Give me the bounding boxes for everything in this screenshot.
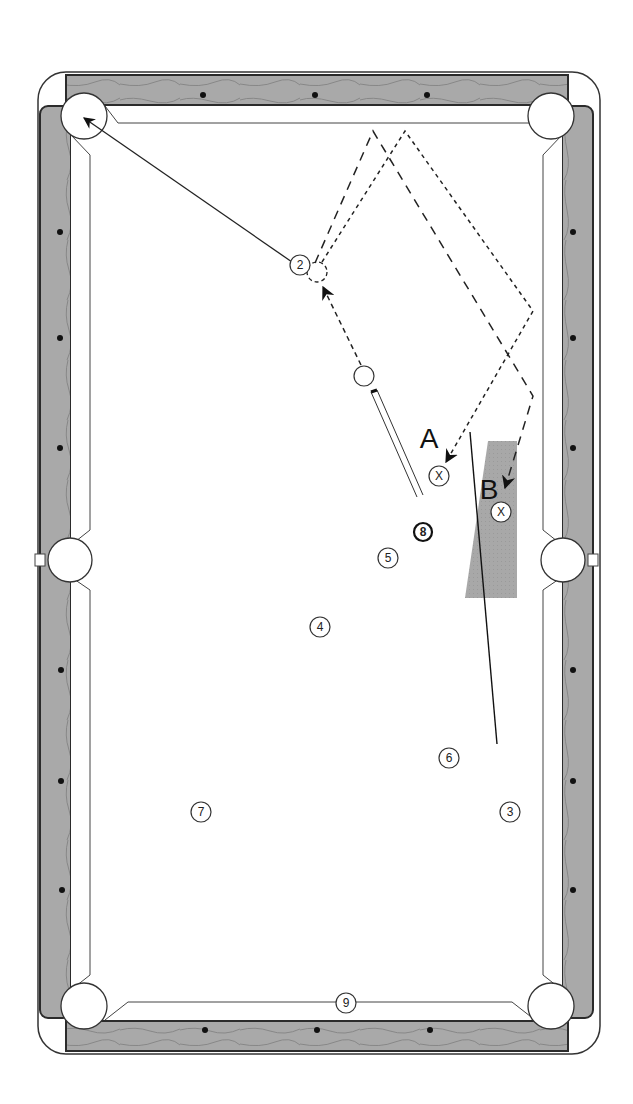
top-rail (66, 75, 568, 105)
pocket-bottom-left (61, 983, 107, 1029)
pocket-middle-right (541, 538, 585, 582)
ball-8: 8 (414, 523, 432, 541)
svg-text:9: 9 (343, 996, 350, 1010)
diamond-icon (314, 1027, 320, 1033)
diamond-icon (58, 667, 64, 673)
diamond-icon (570, 335, 576, 341)
position-label-b: B (480, 474, 499, 505)
pool-table-diagram: 2 8 5 4 6 3 7 9 X X A B (0, 0, 633, 1104)
position-label-a: A (420, 423, 439, 454)
pocket-top-left (61, 93, 107, 139)
diamond-icon (570, 887, 576, 893)
pocket-top-right (528, 93, 574, 139)
svg-text:X: X (435, 469, 443, 483)
diamond-icon (57, 229, 63, 235)
svg-text:X: X (497, 505, 505, 519)
ball-5: 5 (378, 548, 398, 568)
ball-6: 6 (439, 748, 459, 768)
ball-9: 9 (336, 993, 356, 1013)
diamond-icon (59, 887, 65, 893)
diamond-icon (427, 1027, 433, 1033)
svg-text:3: 3 (507, 805, 514, 819)
diamond-icon (312, 92, 318, 98)
diamond-icon (57, 335, 63, 341)
svg-text:4: 4 (317, 620, 324, 634)
side-pocket-nub-right (588, 554, 598, 566)
ball-7: 7 (191, 802, 211, 822)
target-a-marker: X (429, 466, 449, 486)
diamond-icon (202, 1027, 208, 1033)
ball-3: 3 (500, 802, 520, 822)
svg-text:8: 8 (420, 525, 427, 539)
diamond-icon (570, 229, 576, 235)
pocket-middle-left (48, 538, 92, 582)
svg-text:5: 5 (385, 551, 392, 565)
bottom-rail (66, 1021, 568, 1051)
ball-2: 2 (290, 255, 310, 275)
pocket-bottom-right (528, 983, 574, 1029)
cue-ball (354, 366, 374, 386)
diamond-icon (57, 445, 63, 451)
svg-text:6: 6 (446, 751, 453, 765)
svg-text:2: 2 (297, 258, 304, 272)
target-b-marker: X (491, 502, 511, 522)
side-pocket-nub-left (35, 554, 45, 566)
svg-text:7: 7 (198, 805, 205, 819)
diamond-icon (424, 92, 430, 98)
diamond-icon (570, 445, 576, 451)
diamond-icon (570, 667, 576, 673)
diamond-icon (200, 92, 206, 98)
diamond-icon (58, 778, 64, 784)
diamond-icon (570, 778, 576, 784)
ball-4: 4 (310, 617, 330, 637)
